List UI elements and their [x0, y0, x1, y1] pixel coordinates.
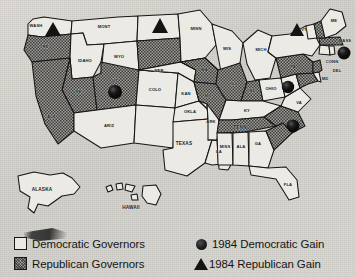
- label-CONN: CONN: [326, 59, 339, 64]
- label-MD: MD: [322, 76, 329, 81]
- us-governors-map: WASH ORE MONT IDAHO WYO NEV CALF UT ARIZ…: [0, 0, 355, 277]
- label-IND: IND: [248, 88, 256, 93]
- label-COLO: COLO: [149, 87, 162, 92]
- label-FLA: FLA: [284, 182, 292, 187]
- label-HAWAII: HAWAII: [122, 205, 140, 210]
- label-OKLA: OKLA: [184, 109, 196, 114]
- state-CONN[interactable]: [319, 45, 330, 55]
- label-VT: VT: [301, 27, 307, 32]
- label-IOWA: IOWA: [196, 67, 208, 72]
- state-HAWAII[interactable]: [106, 183, 161, 205]
- label-MO: MO: [205, 93, 213, 98]
- state-NJ[interactable]: [313, 60, 322, 73]
- label-ILL: ILL: [231, 81, 238, 86]
- label-WASH: WASH: [30, 23, 43, 28]
- label-MINN: MINN: [190, 26, 201, 31]
- label-IDAHO: IDAHO: [78, 58, 93, 63]
- label-CALF: CALF: [44, 114, 56, 119]
- label-OHIO: OHIO: [265, 86, 277, 91]
- label-KY: KY: [244, 108, 250, 113]
- label-KAN: KAN: [181, 91, 190, 96]
- label-MASS: MASS: [339, 38, 352, 43]
- label-MICH: MICH: [255, 47, 266, 52]
- label-ARK: ARK: [206, 119, 215, 124]
- label-WYO: WYO: [114, 54, 125, 59]
- democratic-gain-WVA[interactable]: [282, 81, 294, 93]
- label-NEB: NEB: [154, 68, 163, 73]
- label-ARIZ: ARIZ: [104, 123, 115, 128]
- label-WIS: WIS: [223, 46, 231, 51]
- label-NEV: NEV: [76, 89, 85, 94]
- state-MINN[interactable]: [178, 10, 216, 62]
- state-RI[interactable]: [329, 46, 335, 55]
- label-DEL: DEL: [333, 68, 342, 73]
- label-TENN: TENN: [233, 125, 247, 130]
- state-ALA[interactable]: [233, 132, 249, 166]
- democratic-gain-UT[interactable]: [108, 85, 122, 99]
- democratic-gain-RI[interactable]: [338, 47, 351, 60]
- label-MISS: MISS: [220, 144, 231, 149]
- label-ME: ME: [331, 18, 338, 23]
- label-UT: UT: [112, 78, 118, 83]
- label-ORE: ORE: [39, 44, 48, 49]
- label-ALA: ALA: [237, 144, 246, 149]
- state-ALASKA[interactable]: [18, 172, 80, 213]
- label-MONT: MONT: [98, 24, 111, 29]
- label-GA: GA: [255, 141, 261, 146]
- democratic-gain-NC[interactable]: [287, 120, 300, 133]
- label-PA: PA: [290, 64, 296, 69]
- state-NM[interactable]: [134, 105, 175, 148]
- label-TEXAS: TEXAS: [176, 141, 192, 146]
- state-ME[interactable]: [321, 9, 346, 38]
- map-svg: WASH ORE MONT IDAHO WYO NEV CALF UT ARIZ…: [0, 0, 355, 240]
- label-ALASKA: ALASKA: [32, 187, 53, 192]
- state-MICH[interactable]: [243, 30, 276, 80]
- label-VA: VA: [296, 100, 302, 105]
- label-LA: LA: [216, 149, 222, 154]
